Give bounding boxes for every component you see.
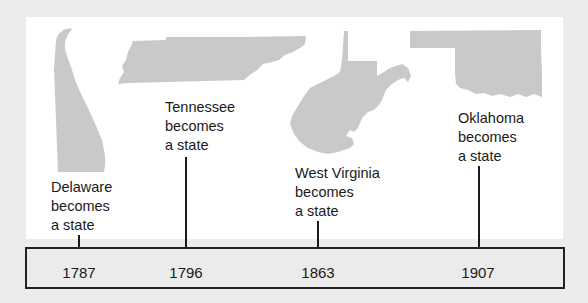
year-1863: 1863 <box>301 264 334 282</box>
year-1787: 1787 <box>62 264 95 282</box>
event-label-delaware: Delaware becomes a state <box>51 178 112 235</box>
event-title: Tennessee <box>165 98 235 117</box>
event-text: becomes <box>51 197 112 216</box>
event-title: West Virginia <box>295 164 380 183</box>
event-text: a state <box>51 216 112 235</box>
event-label-tennessee: Tennessee becomes a state <box>165 98 235 155</box>
delaware-map-icon <box>54 29 105 172</box>
event-label-oklahoma: Oklahoma becomes a state <box>458 109 524 166</box>
event-text: becomes <box>295 183 380 202</box>
connector-line-tennessee <box>185 157 187 259</box>
event-text: a state <box>165 136 235 155</box>
event-title: Delaware <box>51 178 112 197</box>
event-label-west-virginia: West Virginia becomes a state <box>295 164 380 221</box>
oklahoma-map-icon <box>410 30 542 97</box>
event-title: Oklahoma <box>458 109 524 128</box>
year-1796: 1796 <box>169 264 202 282</box>
connector-line-oklahoma <box>478 166 480 259</box>
event-text: a state <box>458 147 524 166</box>
west-virginia-map-icon <box>290 31 411 154</box>
event-text: becomes <box>458 128 524 147</box>
event-text: a state <box>295 202 380 221</box>
tennessee-map-icon <box>118 36 306 84</box>
year-1907: 1907 <box>461 264 494 282</box>
event-text: becomes <box>165 117 235 136</box>
